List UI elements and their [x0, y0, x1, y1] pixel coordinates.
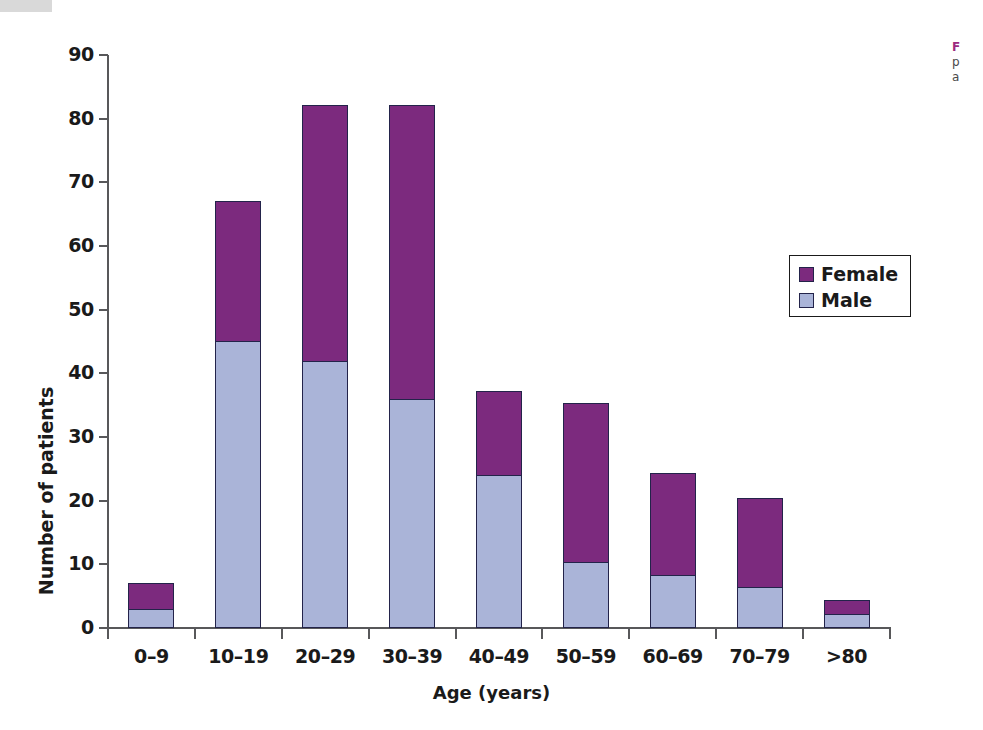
bar-7	[737, 498, 783, 628]
bar-5	[563, 403, 609, 628]
y-tick-90	[99, 54, 108, 56]
y-tick-label-10: 10	[54, 552, 94, 574]
bar-segment-male-2	[302, 361, 348, 628]
legend-swatch-female	[799, 267, 814, 282]
chart-legend: Female Male	[789, 255, 911, 317]
y-tick-80	[99, 118, 108, 120]
y-axis-title-text: Number of patients	[35, 341, 57, 641]
x-tick-5	[541, 629, 543, 639]
bar-segment-female-5	[563, 403, 609, 564]
y-tick-50	[99, 309, 108, 311]
x-tick-4	[455, 629, 457, 639]
bar-4	[476, 391, 522, 628]
bar-segment-male-7	[737, 587, 783, 628]
bar-2	[302, 105, 348, 628]
bar-segment-female-1	[215, 201, 261, 343]
bar-1	[215, 201, 261, 628]
bar-segment-female-3	[389, 105, 435, 401]
caption-line-3: a	[952, 70, 983, 85]
bar-6	[650, 473, 696, 628]
x-axis-title-text: Age (years)	[0, 682, 983, 703]
y-tick-label-30: 30	[54, 425, 94, 447]
caption-title: F	[952, 40, 983, 55]
x-tick-0	[107, 629, 109, 639]
y-tick-label-20: 20	[54, 489, 94, 511]
bar-segment-male-5	[563, 562, 609, 628]
bar-segment-female-0	[128, 583, 174, 611]
plot-area	[108, 55, 890, 628]
caption-line-2: p	[952, 55, 983, 70]
legend-label-male: Male	[821, 291, 872, 310]
x-tick-7	[715, 629, 717, 639]
bar-segment-female-4	[476, 391, 522, 477]
y-tick-label-90: 90	[54, 43, 94, 65]
y-axis-title: Number of patients	[22, 200, 46, 500]
y-tick-40	[99, 372, 108, 374]
bar-segment-male-3	[389, 399, 435, 628]
bar-8	[824, 600, 870, 628]
y-tick-label-70: 70	[54, 170, 94, 192]
legend-swatch-male	[799, 293, 814, 308]
bar-segment-male-1	[215, 341, 261, 628]
y-tick-30	[99, 436, 108, 438]
bar-segment-male-4	[476, 475, 522, 628]
x-tick-9	[889, 629, 891, 639]
y-tick-label-50: 50	[54, 298, 94, 320]
x-tick-1	[194, 629, 196, 639]
y-tick-70	[99, 181, 108, 183]
bar-segment-female-2	[302, 105, 348, 362]
bar-segment-female-7	[737, 498, 783, 589]
x-tick-6	[628, 629, 630, 639]
bar-0	[128, 583, 174, 628]
y-tick-label-80: 80	[54, 107, 94, 129]
bar-segment-female-6	[650, 473, 696, 577]
figure-caption: F p a	[952, 40, 983, 85]
legend-label-female: Female	[821, 265, 898, 284]
bar-3	[389, 105, 435, 628]
y-tick-label-60: 60	[54, 234, 94, 256]
bar-segment-male-6	[650, 575, 696, 628]
legend-item-female: Female	[799, 261, 910, 287]
x-tick-2	[281, 629, 283, 639]
y-tick-label-0: 0	[54, 616, 94, 638]
legend-item-male: Male	[799, 287, 910, 313]
x-tick-3	[368, 629, 370, 639]
y-tick-20	[99, 500, 108, 502]
y-tick-60	[99, 245, 108, 247]
x-tick-8	[802, 629, 804, 639]
bar-segment-male-0	[128, 609, 174, 628]
figure-stacked-bar-chart: 0102030405060708090 Number of patients 0…	[0, 0, 983, 730]
y-tick-label-40: 40	[54, 361, 94, 383]
x-category-label-8: >80	[787, 645, 907, 667]
y-tick-10	[99, 563, 108, 565]
bar-segment-male-8	[824, 614, 870, 628]
